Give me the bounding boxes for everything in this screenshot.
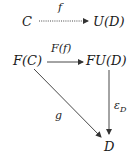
morphism-label-Ff: F(f) bbox=[51, 43, 71, 54]
morphism-label-epsilon: εD bbox=[114, 100, 126, 114]
object-UD: U(D) bbox=[93, 15, 125, 28]
object-D: D bbox=[104, 140, 114, 153]
morphism-label-g: g bbox=[55, 110, 62, 121]
object-FC: F(C) bbox=[13, 54, 42, 67]
arrow-g bbox=[34, 69, 101, 137]
epsilon-subscript: D bbox=[120, 105, 126, 114]
morphism-label-f: f bbox=[58, 2, 62, 13]
object-C: C bbox=[22, 15, 32, 28]
object-FUD: FU(D) bbox=[86, 54, 127, 67]
